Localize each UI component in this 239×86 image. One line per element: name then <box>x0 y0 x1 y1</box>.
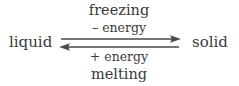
left-state-label: liquid <box>9 35 52 50</box>
forward-energy-label: – energy <box>60 22 178 35</box>
phase-change-diagram: freezing – energy liquid solid + energy … <box>0 0 239 86</box>
right-state-label: solid <box>192 35 228 50</box>
forward-process-label: freezing <box>60 3 178 18</box>
forward-arrow-right-icon <box>61 35 181 43</box>
reverse-energy-label: + energy <box>60 51 178 64</box>
reverse-process-label: melting <box>60 67 178 82</box>
